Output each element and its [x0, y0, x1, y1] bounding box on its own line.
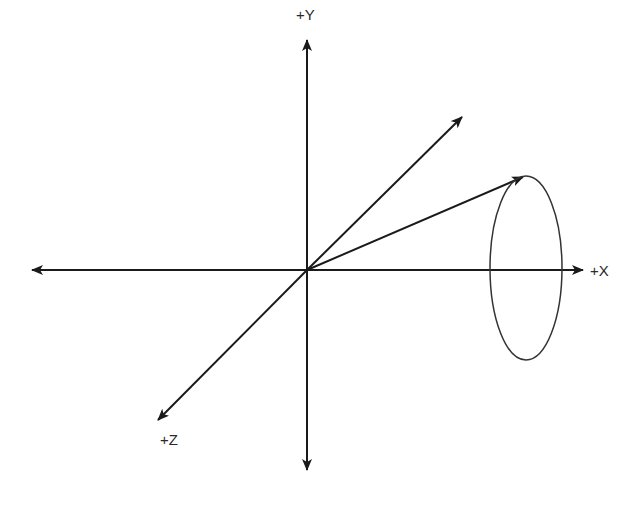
x-axis-label: +X — [590, 262, 609, 279]
precession-ellipse — [490, 176, 562, 360]
z-axis-label: +Z — [160, 431, 178, 448]
y-axis-label: +Y — [296, 6, 315, 23]
coordinate-diagram: +Y +X +Z — [0, 0, 637, 510]
vector-diagonal-arrow — [307, 117, 462, 270]
z-axis — [158, 270, 307, 420]
